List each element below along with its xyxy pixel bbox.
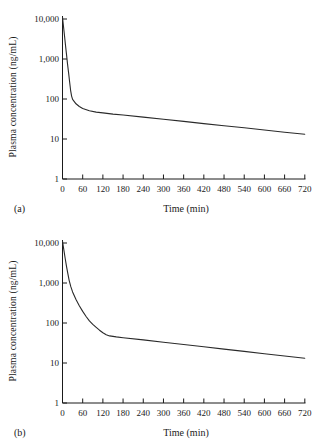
x-tick-label: 240	[137, 408, 151, 418]
y-tick-label: 10	[50, 358, 60, 368]
panel-a: 10,0001,00010010106012018024030036042048…	[0, 0, 325, 224]
x-tick-label: 0	[60, 408, 65, 418]
x-tick-label: 480	[217, 184, 231, 194]
x-tick-label: 300	[157, 184, 171, 194]
concentration-curve	[63, 241, 305, 358]
x-tick-label: 60	[78, 408, 88, 418]
y-tick-label: 1	[55, 398, 60, 408]
x-tick-label: 420	[197, 408, 211, 418]
x-tick-label: 540	[237, 408, 251, 418]
x-tick-label: 360	[177, 408, 191, 418]
x-tick-label: 420	[197, 184, 211, 194]
y-tick-label: 10,000	[34, 238, 59, 248]
y-tick-label: 100	[46, 318, 60, 328]
x-tick-label: 120	[96, 184, 110, 194]
y-tick-label: 100	[46, 94, 60, 104]
plot-area-b: 10,0001,00010010106012018024030036042048…	[0, 224, 325, 424]
y-tick-label: 10,000	[34, 14, 59, 24]
x-tick-label: 720	[298, 184, 312, 194]
y-tick-label: 10	[50, 134, 60, 144]
panel-letter-b: (b)	[14, 427, 26, 438]
y-tick-label: 1	[55, 174, 60, 184]
figure: 10,0001,00010010106012018024030036042048…	[0, 0, 325, 448]
plot-area-a: 10,0001,00010010106012018024030036042048…	[0, 0, 325, 200]
x-tick-label: 300	[157, 408, 171, 418]
x-tick-label: 660	[278, 408, 292, 418]
x-tick-label: 660	[278, 184, 292, 194]
x-axis-title-b: Time (min)	[163, 427, 208, 438]
x-tick-label: 0	[60, 184, 65, 194]
y-axis-title-a: Plasma concentration (ng/mL)	[8, 36, 18, 157]
axis-spine	[63, 16, 306, 179]
x-tick-label: 600	[258, 184, 272, 194]
x-tick-label: 360	[177, 184, 191, 194]
x-tick-label: 540	[237, 184, 251, 194]
axis-spine	[63, 240, 306, 403]
x-axis-title-a: Time (min)	[163, 203, 208, 214]
panel-b: 10,0001,00010010106012018024030036042048…	[0, 224, 325, 448]
x-tick-label: 480	[217, 408, 231, 418]
x-tick-label: 240	[137, 184, 151, 194]
x-tick-label: 180	[116, 408, 130, 418]
x-tick-label: 60	[78, 184, 88, 194]
x-tick-label: 720	[298, 408, 312, 418]
x-tick-label: 180	[116, 184, 130, 194]
y-tick-label: 1,000	[39, 278, 60, 288]
x-tick-label: 120	[96, 408, 110, 418]
concentration-curve	[63, 17, 305, 134]
y-tick-label: 1,000	[39, 54, 60, 64]
y-axis-title-b: Plasma concentration (ng/mL)	[8, 260, 18, 381]
panel-letter-a: (a)	[14, 203, 25, 214]
x-tick-label: 600	[258, 408, 272, 418]
